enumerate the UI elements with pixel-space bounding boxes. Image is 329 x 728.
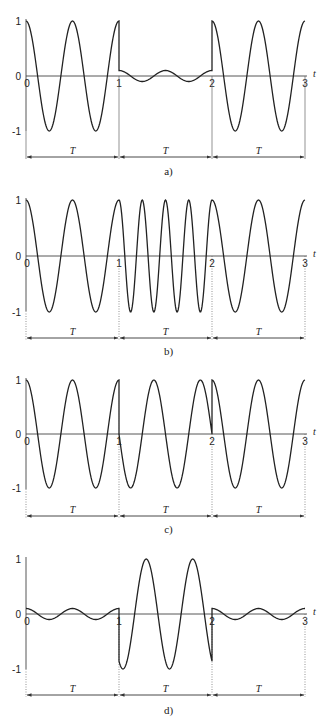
y-tick-label: 0 <box>15 71 21 82</box>
y-tick-label: 0 <box>15 251 21 262</box>
y-tick-label: -1 <box>12 126 21 137</box>
y-tick-label: 0 <box>15 609 21 620</box>
axis-label-t: t <box>313 426 316 437</box>
interval-label-T: T <box>163 326 170 337</box>
panel-caption: b) <box>164 345 174 358</box>
interval-label-T: T <box>256 326 263 337</box>
interval-label-T: T <box>256 504 263 515</box>
y-tick-label: 1 <box>15 375 21 386</box>
panel-caption: c) <box>164 523 173 536</box>
panel-b: 10-10123tTTTb) <box>12 195 316 359</box>
signal-figure: 10-10123tTTTa)10-10123tTTTb)10-10123tTTT… <box>0 0 329 728</box>
panel-caption: d) <box>164 704 174 717</box>
interval-label-T: T <box>256 683 263 694</box>
axis-label-t: t <box>313 606 316 617</box>
interval-label-T: T <box>163 145 170 156</box>
interval-label-T: T <box>70 326 77 337</box>
interval-label-T: T <box>163 683 170 694</box>
x-tick-label: 0 <box>24 616 30 627</box>
x-tick-label: 0 <box>24 436 30 447</box>
y-tick-label: -1 <box>12 307 21 318</box>
y-tick-label: 1 <box>15 554 21 565</box>
x-tick-label: 0 <box>24 258 30 269</box>
panel-c: 10-10123tTTTc) <box>12 375 316 537</box>
interval-label-T: T <box>163 504 170 515</box>
y-tick-label: -1 <box>12 483 21 494</box>
interval-label-T: T <box>70 683 77 694</box>
y-tick-label: 1 <box>15 16 21 27</box>
panel-a: 10-10123tTTTa) <box>12 16 316 179</box>
interval-label-T: T <box>70 145 77 156</box>
axis-label-t: t <box>313 68 316 79</box>
y-tick-label: -1 <box>12 664 21 675</box>
axis-label-t: t <box>313 248 316 259</box>
y-tick-label: 1 <box>15 195 21 206</box>
interval-label-T: T <box>70 504 77 515</box>
panel-d: 10-10123tTTTd) <box>12 554 316 718</box>
interval-label-T: T <box>256 145 263 156</box>
y-tick-label: 0 <box>15 429 21 440</box>
panel-caption: a) <box>164 165 173 178</box>
x-tick-label: 0 <box>24 78 30 89</box>
